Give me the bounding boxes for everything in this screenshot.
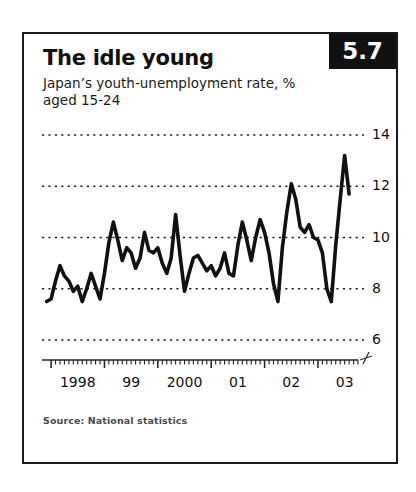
y-axis-tick-label: 8 — [372, 280, 402, 296]
data-series-line — [47, 156, 349, 302]
x-axis-tick-label: 99 — [101, 374, 161, 390]
y-axis-tick-label: 12 — [372, 177, 402, 193]
x-axis-ticks-group — [51, 360, 358, 368]
figure-number-badge: 5.7 — [329, 34, 396, 69]
chart-figure-card: 5.7 The idle young Japan’s youth-unemplo… — [22, 32, 398, 464]
y-axis-tick-label: 10 — [372, 229, 402, 245]
chart-subtitle: Japan’s youth-unemployment rate, % aged … — [43, 75, 295, 109]
source-note: Source: National statistics — [43, 415, 187, 426]
axis-break-icon — [360, 352, 372, 364]
chart-subtitle-line-2: aged 15-24 — [43, 92, 295, 109]
y-axis-tick-label: 14 — [372, 126, 402, 142]
x-axis-tick-label: 02 — [261, 374, 321, 390]
x-axis-tick-label: 1998 — [48, 374, 108, 390]
chart-subtitle-line-1: Japan’s youth-unemployment rate, % — [43, 75, 295, 92]
y-axis-tick-label: 6 — [372, 331, 402, 347]
chart-title: The idle young — [43, 46, 214, 70]
x-axis-tick-label: 03 — [315, 374, 375, 390]
x-axis-tick-label: 01 — [208, 374, 268, 390]
x-axis-tick-label: 2000 — [155, 374, 215, 390]
